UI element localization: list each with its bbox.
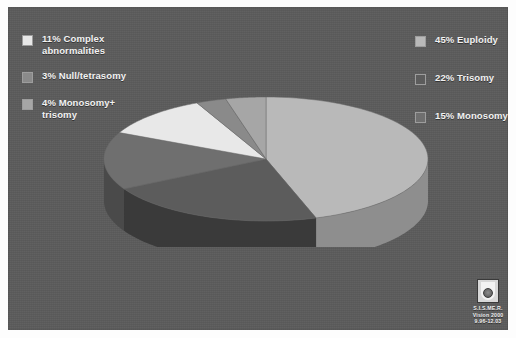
legend-label-complex-abnormalities: 11% Complex abnormalities — [42, 33, 105, 56]
legend-swatch-monosomy — [415, 112, 426, 123]
legend-item-euploidy: 45% Euploidy — [415, 34, 516, 47]
legend-label-null-tetrasomy: 3% Null/tetrasomy — [42, 70, 126, 82]
chart-panel: 11% Complex abnormalities 3% Null/tetras… — [8, 7, 508, 330]
sismer-logo-icon — [477, 279, 499, 303]
logo-line-3: 9.96-12.03 — [466, 318, 510, 325]
legend-swatch-trisomy — [415, 74, 426, 85]
legend-item-monosomy-trisomy: 4% Monosomy+ trisomy — [22, 97, 197, 120]
legend-swatch-null-tetrasomy — [22, 72, 33, 83]
logo-line-1: S.I.S.ME.R. — [466, 305, 510, 312]
legend-swatch-monosomy-trisomy — [22, 99, 33, 110]
legend-item-monosomy: 15% Monosomy — [415, 110, 516, 123]
legend-swatch-complex-abnormalities — [22, 35, 33, 46]
legend-item-null-tetrasomy: 3% Null/tetrasomy — [22, 70, 197, 83]
legend-item-complex-abnormalities: 11% Complex abnormalities — [22, 33, 197, 56]
legend-label-monosomy-trisomy: 4% Monosomy+ trisomy — [42, 97, 150, 120]
chart-image: 11% Complex abnormalities 3% Null/tetras… — [0, 0, 516, 338]
logo-line-2: Vision 2000 — [466, 312, 510, 319]
legend-swatch-euploidy — [415, 36, 426, 47]
legend-label-trisomy: 22% Trisomy — [435, 72, 494, 84]
legend-item-trisomy: 22% Trisomy — [415, 72, 516, 85]
legend-label-monosomy: 15% Monosomy — [435, 110, 508, 122]
legend-right: 45% Euploidy 22% Trisomy 15% Monosomy — [415, 34, 516, 148]
legend-label-euploidy: 45% Euploidy — [435, 34, 498, 46]
sismer-logo: S.I.S.ME.R. Vision 2000 9.96-12.03 — [466, 279, 510, 329]
logo-disc-shape — [483, 288, 493, 298]
legend-left: 11% Complex abnormalities 3% Null/tetras… — [22, 33, 197, 134]
